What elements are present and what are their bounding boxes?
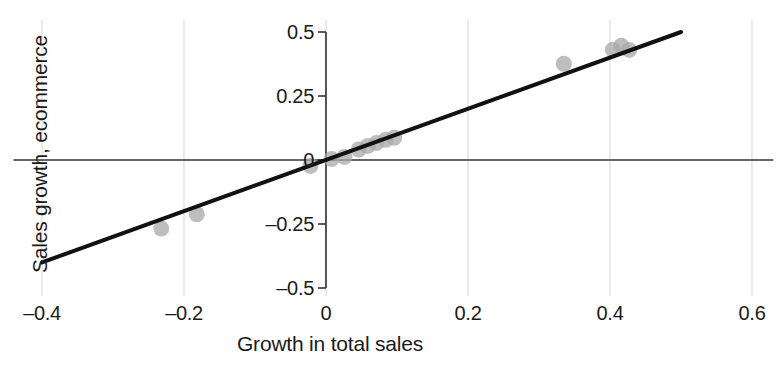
x-tick-label: 0.4	[597, 302, 624, 325]
x-tick-label: –0.4	[23, 302, 61, 325]
y-tick-label: 0.5	[236, 21, 314, 44]
x-tick-label: 0.6	[739, 302, 766, 325]
x-tick-label: 0	[321, 302, 332, 325]
x-tick-label: 0.2	[455, 302, 482, 325]
axis-lines-group	[14, 32, 774, 288]
trendline-group	[42, 32, 681, 262]
x-axis-title: Growth in total sales	[0, 332, 660, 356]
y-tick-label: –0.5	[236, 277, 314, 300]
plot-area	[0, 0, 778, 373]
y-tick-label: 0	[236, 149, 314, 172]
gridlines-group	[42, 20, 752, 296]
y-tick-label: 0.25	[236, 85, 314, 108]
trendline	[42, 32, 681, 262]
y-axis-title: Sales growth, ecommerce	[28, 4, 52, 304]
data-point	[556, 56, 572, 72]
x-tick-label: –0.2	[165, 302, 203, 325]
scatter-chart-figure: –0.4–0.200.20.40.6 0.50.250–0.25–0.5 Gro…	[0, 0, 778, 373]
data-points-group	[153, 38, 637, 237]
y-tick-label: –0.25	[236, 213, 314, 236]
